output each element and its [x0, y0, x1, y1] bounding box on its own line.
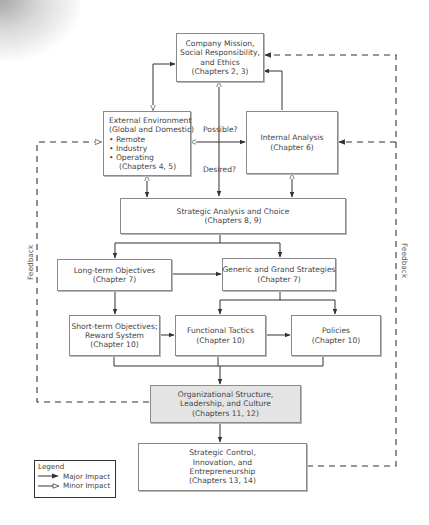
- node-company-mission: Company Mission, Social Responsibility, …: [176, 33, 264, 82]
- label-possible: Possible?: [203, 125, 238, 134]
- node-text: (Global and Domestic): [109, 125, 194, 134]
- node-long-term-objectives: Long-term Objectives (Chapter 7): [57, 259, 172, 291]
- label-feedback-right: Feedback: [400, 243, 409, 278]
- node-text: (Chapters 4, 5): [109, 162, 176, 171]
- node-internal-analysis: Internal Analysis (Chapter 6): [246, 111, 338, 174]
- node-organizational-structure: Organizational Structure, Leadership, an…: [150, 385, 301, 423]
- node-text: (Chapter 7): [257, 275, 301, 284]
- node-text: Innovation, and: [193, 458, 252, 467]
- node-text: Long-term Objectives: [74, 266, 156, 275]
- node-policies: Policies (Chapter 10): [291, 315, 381, 356]
- legend-major-label: Major Impact: [63, 472, 110, 482]
- node-text: Reward System: [85, 331, 144, 340]
- node-text: (Chapter 6): [270, 143, 314, 152]
- node-strategic-control: Strategic Control, Innovation, and Entre…: [138, 443, 307, 491]
- node-text: • Industry: [109, 144, 147, 153]
- node-text: (Chapter 10): [312, 336, 360, 345]
- node-generic-grand-strategies: Generic and Grand Strategies (Chapter 7): [222, 258, 336, 291]
- node-text: (Chapter 10): [90, 340, 138, 349]
- node-text: Leadership, and Culture: [180, 399, 271, 408]
- node-text: Functional Tactics: [187, 326, 254, 335]
- legend-major: Major Impact: [38, 472, 112, 482]
- legend-title: Legend: [38, 462, 112, 472]
- node-functional-tactics: Functional Tactics (Chapter 10): [175, 315, 266, 356]
- legend-minor-label: Minor Impact: [63, 481, 110, 491]
- node-text: Internal Analysis: [261, 133, 324, 142]
- node-text: (Chapters 11, 12): [192, 409, 259, 418]
- node-strategic-analysis-choice: Strategic Analysis and Choice (Chapters …: [120, 198, 346, 234]
- node-text: Organizational Structure,: [178, 390, 273, 399]
- node-text: Generic and Grand Strategies: [222, 265, 335, 274]
- hollow-arrow-icon: [38, 483, 60, 489]
- label-desired: Desired?: [203, 165, 236, 174]
- node-text: and Ethics: [200, 58, 240, 67]
- node-text: (Chapters 2, 3): [191, 67, 248, 76]
- node-text: Short-term Objectives;: [71, 322, 157, 331]
- node-text: Social Responsibility,: [180, 48, 260, 57]
- node-text: (Chapters 8, 9): [204, 216, 261, 225]
- node-text: (Chapters 13, 14): [189, 476, 256, 485]
- node-text: Policies: [322, 326, 350, 335]
- node-text: Strategic Control,: [189, 448, 256, 457]
- node-short-term-objectives: Short-term Objectives; Reward System (Ch…: [69, 315, 160, 356]
- node-text: Company Mission,: [185, 39, 254, 48]
- node-text: (Chapter 7): [93, 275, 137, 284]
- node-text: • Remote: [109, 135, 145, 144]
- legend: Legend Major Impact Minor Impact: [34, 460, 116, 498]
- solid-arrow-icon: [38, 473, 60, 479]
- node-text: (Chapter 10): [196, 336, 244, 345]
- node-text: • Operating: [109, 153, 154, 162]
- node-text: External Environment: [109, 116, 191, 125]
- label-feedback-left: Feedback: [26, 245, 35, 280]
- node-text: Strategic Analysis and Choice: [177, 207, 290, 216]
- legend-minor: Minor Impact: [38, 481, 112, 491]
- node-external-environment: External Environment (Global and Domesti…: [103, 111, 191, 176]
- node-text: Entrepreneurship: [190, 467, 256, 476]
